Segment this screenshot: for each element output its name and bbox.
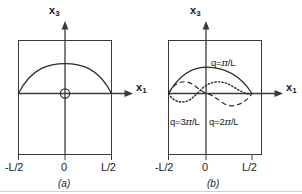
panel-a-caption: (a) <box>58 179 70 189</box>
panel-a-tick-label-left: -L/2 <box>5 162 23 173</box>
panel-a-graphics <box>19 21 134 160</box>
panel-a-x1-arrowhead <box>125 90 134 97</box>
panel-b-mode-3-curve <box>169 82 253 102</box>
figure-root: x3 x1 -L/2 0 L/2 (a) x3 x1 q=π/L q=3π/L … <box>0 0 302 194</box>
panel-b-x3-axis-label: x3 <box>190 5 201 18</box>
panel-b-mode-1-label: q=π/L <box>211 58 235 68</box>
panel-b-tick-label-origin: 0 <box>202 162 208 173</box>
panel-b-caption: (b) <box>207 179 219 189</box>
panel-a-x1-axis-label: x1 <box>136 82 147 95</box>
panel-b-x1-arrowhead <box>275 90 284 97</box>
panel-a-x3-arrowhead <box>62 21 69 30</box>
panel-a-tick-label-right: L/2 <box>101 162 116 173</box>
panel-a-x3-axis-label: x3 <box>49 5 60 18</box>
panel-b-x3-arrowhead <box>203 21 210 30</box>
panel-b-tick-label-right: L/2 <box>242 162 257 173</box>
panel-a-tick-label-origin: 0 <box>61 162 67 173</box>
panel-b-mode-1-curve <box>169 67 253 94</box>
panel-b-graphics <box>169 21 284 160</box>
panel-b-mode-3-label: q=3π/L <box>170 117 199 127</box>
panel-b-mode-2-label: q=2π/L <box>209 117 238 127</box>
panel-b-tick-label-left: -L/2 <box>155 162 173 173</box>
panel-b-x1-axis-label: x1 <box>286 82 297 95</box>
